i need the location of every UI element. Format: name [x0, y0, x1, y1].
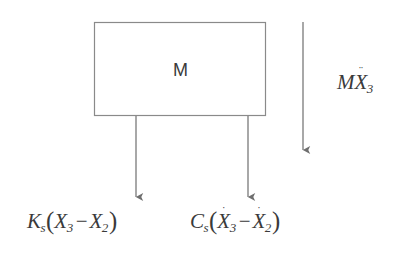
spring-term1: X	[54, 211, 67, 232]
damper-coef-sub: s	[204, 220, 209, 235]
damper-operator: −	[237, 209, 253, 233]
spring-close-paren: )	[109, 207, 117, 234]
damper-term1-accent: ˙	[222, 206, 227, 218]
spring-operator: −	[74, 209, 90, 233]
inertial-force-label: MX¨3	[337, 72, 374, 93]
damper-term2-sub: 2	[265, 220, 272, 235]
inertia-term: X¨	[355, 72, 368, 93]
inertia-coef: M	[337, 70, 355, 94]
damper-term1-sub: 3	[230, 220, 237, 235]
damper-close-paren: )	[272, 207, 280, 234]
spring-coef: K	[27, 209, 41, 233]
spring-term1-sub: 3	[67, 220, 74, 235]
inertia-term-sub: 3	[367, 81, 374, 96]
inertia-term-accent: ¨	[359, 66, 364, 78]
damper-term2: X˙	[253, 211, 266, 232]
damper-term1: X˙	[217, 211, 230, 232]
spring-force-label: Ks(X3−X2)	[27, 208, 117, 233]
damper-force-label: Cs(X˙3−X˙2)	[190, 208, 280, 233]
spring-term1-var: X	[54, 211, 67, 232]
damper-term2-accent: ˙	[257, 206, 262, 218]
spring-term2: X	[90, 211, 103, 232]
spring-coef-sub: s	[41, 220, 46, 235]
spring-term2-sub: 2	[102, 220, 109, 235]
free-body-diagram: M Ks(X3−X2) Cs(X˙3−X˙2) MX¨3	[0, 0, 405, 253]
spring-term2-var: X	[90, 211, 103, 232]
damper-coef: C	[190, 209, 204, 233]
mass-block-label: M	[173, 60, 189, 81]
